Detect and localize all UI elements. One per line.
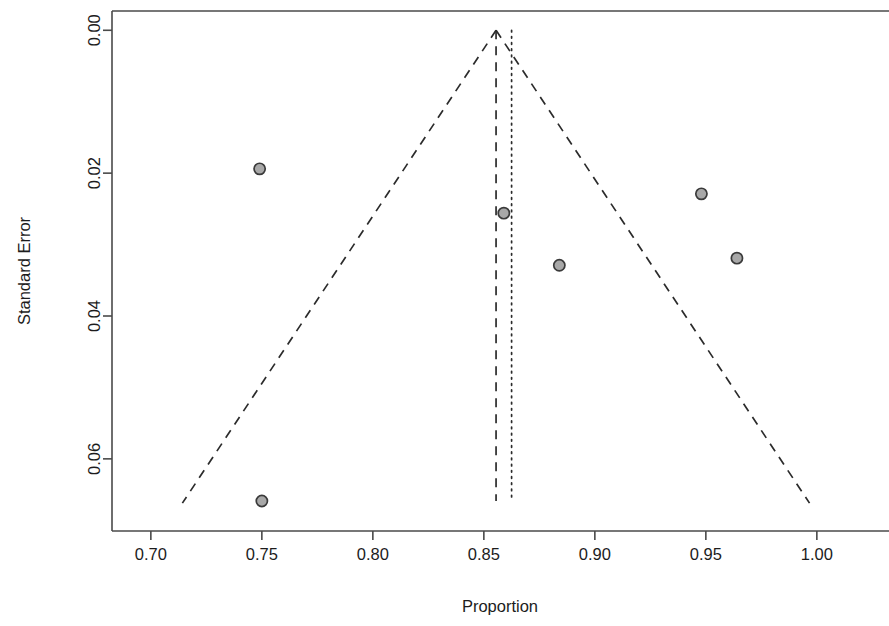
study-point: [498, 208, 509, 219]
funnel-left-bound: [182, 30, 496, 503]
x-tick-label: 0.90: [579, 545, 611, 563]
reference-lines: [496, 30, 512, 501]
funnel-plot-canvas: 0.000.020.040.06 0.700.750.800.850.900.9…: [0, 0, 889, 626]
study-point: [554, 260, 565, 271]
x-tick-label: 0.85: [468, 545, 500, 563]
y-tick-label: 0.00: [85, 14, 103, 46]
x-axis-ticks: 0.700.750.800.850.900.951.00: [135, 531, 833, 563]
y-axis-ticks: 0.000.020.040.06: [85, 14, 112, 475]
funnel-plot-figure: 0.000.020.040.06 0.700.750.800.850.900.9…: [0, 0, 889, 626]
y-tick-label: 0.02: [85, 157, 103, 189]
study-points: [254, 163, 743, 506]
y-axis-title: Standard Error: [15, 216, 33, 325]
study-point: [256, 495, 267, 506]
plot-frame: [112, 11, 889, 531]
y-tick-label: 0.06: [85, 443, 103, 475]
x-tick-label: 0.80: [357, 545, 389, 563]
study-point: [696, 188, 707, 199]
study-point: [731, 253, 742, 264]
x-axis-title: Proportion: [462, 597, 538, 615]
y-tick-label: 0.04: [85, 300, 103, 332]
study-point: [254, 163, 265, 174]
x-tick-label: 1.00: [801, 545, 833, 563]
x-tick-label: 0.70: [135, 545, 167, 563]
x-tick-label: 0.75: [246, 545, 278, 563]
funnel-right-bound: [496, 30, 809, 503]
x-tick-label: 0.95: [690, 545, 722, 563]
